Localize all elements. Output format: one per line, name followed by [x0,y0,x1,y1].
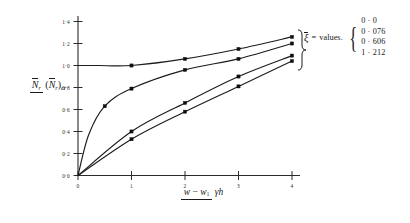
x-axis-label-w1-sub: 1 [206,191,209,197]
series-data-point [130,64,133,67]
y-tick-label: 0·6 [62,107,70,113]
legend-item: 0 · 076 [361,27,385,38]
y-axis-label: Nr (Nr)cr [20,78,76,93]
legend-item: 1 · 212 [361,48,385,59]
legend-equals: = [312,33,317,42]
legend-item: 0 · 606 [361,37,385,48]
legend-item: 0 · 0 [361,16,385,27]
y-tick-label: 0·2 [62,151,70,157]
series-data-point [130,87,133,90]
x-axis-label-h: h [219,187,224,197]
x-axis-label-numerator: w − w1 [181,187,213,200]
chart-legend: ξ = values. { 0 · 0 0 · 076 0 · 606 1 · … [304,16,385,59]
legend-value-list: 0 · 0 0 · 076 0 · 606 1 · 212 [361,16,385,59]
series-data-point [290,54,293,57]
y-axis-label-cr-sub: cr [61,84,66,91]
y-axis-label-nr-sub: r [38,84,40,91]
series-data-point [237,85,240,88]
series-data-point [183,68,186,71]
series-data-point [237,47,240,50]
y-axis-tick-labels: 0·00·20·40·60·81·01·21·4 [62,19,70,179]
x-axis-label-w: w [184,187,190,197]
series-line [78,61,292,175]
series-data-point [183,57,186,60]
y-axis-label-denominator: (Nr)cr [45,78,66,91]
y-axis-label-nr: N [32,79,39,90]
series-line [78,37,292,66]
series-data-point [237,57,240,60]
x-axis-label: w − w1 γh [162,186,242,200]
y-tick-label: 1·4 [62,19,70,25]
legend-values-word: values. [319,33,343,42]
series-line [78,56,292,176]
x-axis-label-minus: − [192,187,197,197]
y-tick-label: 1·2 [62,41,70,47]
series-data-point [183,110,186,113]
x-tick-label: 1 [130,183,133,189]
series-data-point [103,105,106,108]
legend-symbol-xi: ξ [304,32,309,43]
figure-container: 0·00·20·40·60·81·01·21·4 01234 Nr (Nr)cr… [0,0,410,223]
series-data-point [130,130,133,133]
series-data-point [237,75,240,78]
y-tick-label: 1·0 [62,63,70,69]
series-line [78,44,292,176]
x-axis-label-denominator: γh [215,186,224,198]
series-data-point [290,42,293,45]
y-axis-label-numerator: Nr [30,79,43,93]
series-data-point [290,60,293,63]
series-data-point [183,101,186,104]
x-tick-label: 0 [77,183,80,189]
y-tick-label: 0·0 [62,173,70,179]
y-tick-label: 0·4 [62,129,70,135]
y-axis-label-den-n: N [49,79,56,90]
series-data-point [130,138,133,141]
series-data-point [290,35,293,38]
x-tick-label: 4 [291,183,294,189]
